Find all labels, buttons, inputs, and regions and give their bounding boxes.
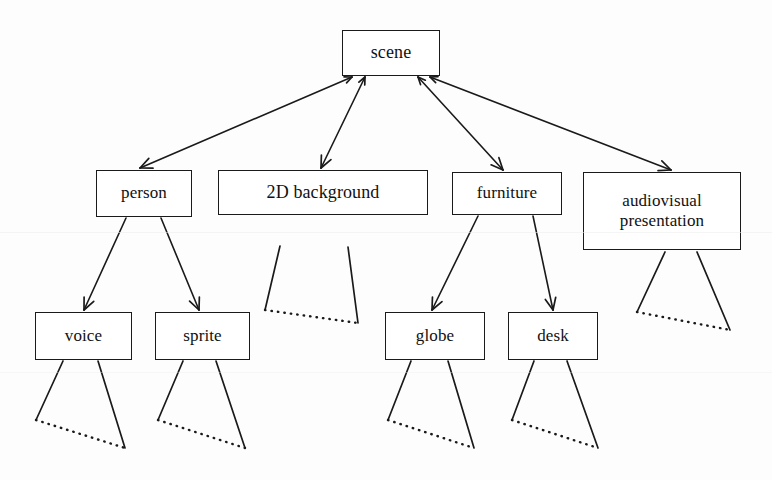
node-label-audiovisual: audiovisual presentation bbox=[616, 191, 708, 231]
edge-furniture-globe bbox=[432, 216, 478, 310]
fan-sprite bbox=[158, 361, 245, 448]
edge-furniture-desk bbox=[533, 216, 556, 310]
node-person[interactable]: person bbox=[96, 170, 192, 217]
edge-scene-person bbox=[140, 77, 352, 168]
fan-globe bbox=[388, 361, 474, 448]
node-label-furniture: furniture bbox=[473, 183, 541, 203]
node-furniture[interactable]: furniture bbox=[452, 172, 562, 215]
edge-scene-audiovisual bbox=[430, 77, 671, 171]
node-desk[interactable]: desk bbox=[508, 312, 598, 360]
edge-person-voice bbox=[84, 218, 126, 310]
diagram-canvas: sceneperson2D backgroundfurnitureaudiovi… bbox=[0, 0, 772, 480]
node-label-sprite: sprite bbox=[179, 326, 225, 346]
node-label-voice: voice bbox=[61, 326, 106, 346]
node-voice[interactable]: voice bbox=[35, 312, 132, 360]
fan-voice bbox=[36, 361, 125, 448]
edge-scene-background2d bbox=[321, 77, 365, 168]
node-sprite[interactable]: sprite bbox=[155, 312, 250, 360]
node-label-person: person bbox=[117, 183, 171, 203]
node-audiovisual[interactable]: audiovisual presentation bbox=[583, 172, 741, 250]
node-label-globe: globe bbox=[412, 326, 458, 346]
node-globe[interactable]: globe bbox=[385, 312, 485, 360]
node-label-background2d: 2D background bbox=[263, 182, 384, 203]
node-label-scene: scene bbox=[367, 42, 415, 63]
node-background2d[interactable]: 2D background bbox=[218, 170, 428, 215]
edge-scene-furniture bbox=[418, 77, 503, 170]
edge-person-sprite bbox=[161, 218, 199, 310]
node-scene[interactable]: scene bbox=[342, 30, 440, 76]
node-label-desk: desk bbox=[533, 326, 573, 346]
fan-desk bbox=[512, 361, 598, 448]
fan-background2d bbox=[265, 246, 358, 323]
fan-audiovisual bbox=[637, 252, 730, 330]
